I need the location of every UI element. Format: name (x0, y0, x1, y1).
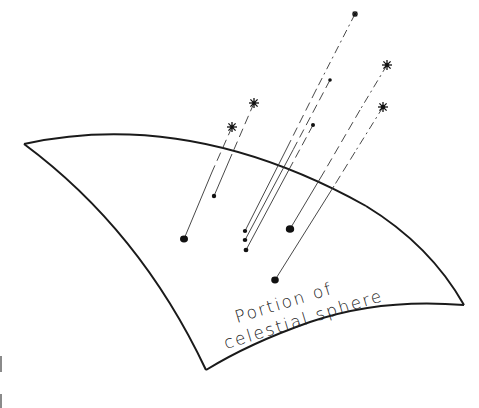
sight-line-2-near (214, 154, 232, 196)
celestial-sphere-diagram: Portion of celestial sphere (0, 0, 479, 408)
sight-line-1-near (184, 172, 212, 239)
star-icon (249, 98, 259, 108)
projection-dot (243, 238, 248, 242)
star-icon (227, 122, 237, 132)
far-dot (212, 194, 216, 198)
sight-line-3-far (316, 14, 355, 90)
sight-line-7-far (355, 107, 383, 152)
star-icon (382, 60, 392, 70)
projection-dot (243, 229, 247, 233)
star-icon (378, 102, 388, 112)
sight-line-7-near (275, 186, 334, 280)
scan-edge-mark (0, 356, 2, 372)
sight-line-5-near (246, 164, 292, 250)
sight-line-7-mid (334, 152, 355, 186)
sight-line-4-far (293, 80, 330, 150)
surface-top-edge (24, 134, 366, 206)
sight-line-3-mid (287, 90, 316, 148)
star-icon (352, 11, 358, 17)
projection-dot (286, 225, 294, 233)
far-dot (328, 78, 332, 82)
projections (180, 225, 294, 283)
projection-dot (271, 277, 279, 284)
sight-line-4-near (245, 150, 293, 240)
far-dot (311, 123, 315, 127)
sight-line-2-far (232, 103, 254, 154)
surface-left-edge (24, 144, 206, 370)
surface-label: Portion of celestial sphere (221, 278, 385, 353)
projection-dot (244, 248, 249, 252)
sight-line-6-mid (324, 110, 360, 172)
scan-edge-mark (0, 394, 2, 408)
stars (227, 11, 392, 132)
sight-line-6-near (290, 172, 324, 229)
projection-dot (180, 236, 188, 243)
